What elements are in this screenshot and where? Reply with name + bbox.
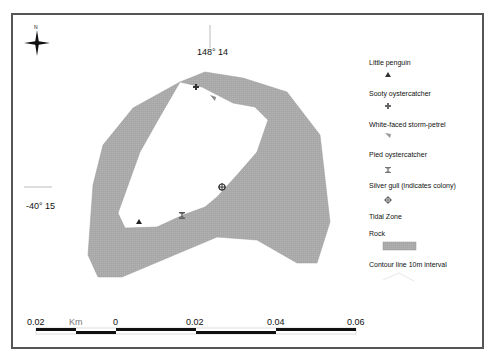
contour-line-icon bbox=[383, 273, 414, 281]
scale-tick-label: 0.02 bbox=[27, 317, 45, 327]
legend-label-storm-petrel: White-faced storm-petrel bbox=[369, 121, 446, 128]
cross-icon bbox=[385, 103, 391, 109]
scale-tick-label: 0.04 bbox=[267, 317, 285, 327]
legend-label-tidal-zone: Tidal Zone bbox=[369, 213, 402, 220]
scale-tick-label: 0 bbox=[113, 317, 118, 327]
legend-label-contour: Contour line 10m interval bbox=[369, 261, 447, 268]
flag-icon bbox=[385, 133, 391, 138]
map-canvas: N bbox=[0, 0, 496, 359]
scale-tick-label: 0.02 bbox=[186, 317, 204, 327]
crosshair-icon bbox=[384, 196, 392, 204]
legend-label-pied-oystercatcher: Pied oystercatcher bbox=[369, 151, 427, 158]
legend-label-rock: Rock bbox=[369, 230, 385, 237]
hourglass-icon bbox=[385, 167, 391, 173]
scale-bar bbox=[36, 328, 356, 334]
legend-label-sooty-oystercatcher: Sooty oystercatcher bbox=[369, 90, 431, 97]
gray-swatch bbox=[383, 242, 416, 250]
triangle-icon bbox=[385, 72, 391, 77]
legend-label-silver-gull: Silver gull (indicates colony) bbox=[369, 182, 456, 189]
latitude-label: -40° 15 bbox=[26, 201, 55, 211]
legend-label-little-penguin: Little penguin bbox=[369, 59, 411, 66]
svg-text:N: N bbox=[34, 24, 38, 30]
longitude-label: 148° 14 bbox=[197, 47, 228, 57]
compass-rose-icon: N bbox=[24, 24, 50, 56]
scale-tick-label: 0.06 bbox=[347, 317, 365, 327]
scale-unit-label: Km bbox=[69, 317, 83, 327]
